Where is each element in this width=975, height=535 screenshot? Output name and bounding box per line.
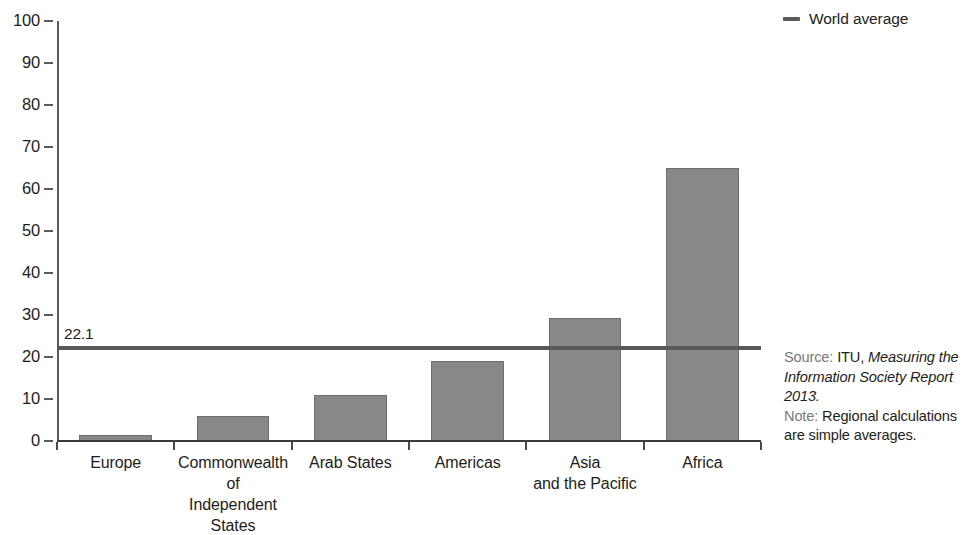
world-average-value-label: 22.1 [64,326,93,341]
bar-commonwealth-of-independent-states [197,416,270,441]
bar-arab-states [314,395,387,441]
x-axis-label-europe: Europe [57,452,174,473]
y-axis-tick-label: 50 [0,222,40,238]
bar-series [57,21,761,441]
plot-area: 1009080706050403020100 22.1 EuropeCommon… [0,0,760,519]
x-axis-tick-mark [760,442,762,450]
y-axis-tick-mark [44,230,53,232]
x-axis-label-commonwealth-of-independent-states: CommonwealthofIndependent States [174,452,291,535]
x-axis-label-americas: Americas [409,452,526,473]
y-axis-tick-mark [44,356,53,358]
y-axis-tick-mark [44,314,53,316]
x-axis-tick-mark [56,442,58,450]
y-axis-tick-mark [44,146,53,148]
y-axis-tick-mark [44,188,53,190]
x-axis-label-line: Europe [57,452,174,473]
y-axis-tick-mark [44,272,53,274]
x-axis-category-labels: EuropeCommonwealthofIndependent StatesAr… [57,452,761,519]
x-axis-label-line: Independent States [174,494,291,535]
x-axis-label-africa: Africa [644,452,761,473]
y-axis-tick-mark [44,62,53,64]
y-axis-tick-mark [44,440,53,442]
x-axis-tick-mark [408,442,410,450]
y-axis-tick-label: 100 [0,12,40,28]
bar-asia-and-the-pacific [549,318,622,441]
x-axis-label-arab-states: Arab States [292,452,409,473]
x-axis-tick-mark [525,442,527,450]
x-axis-label-line: of [174,473,291,494]
legend-label-world-average: World average [809,10,908,27]
bar-americas [431,361,504,441]
source-line: Source: ITU, Measuring the Information S… [784,348,974,407]
source-publisher: ITU, [833,349,868,365]
y-axis-tick-label: 90 [0,54,40,70]
x-axis-label-line: Asia [526,452,643,473]
world-average-line [57,346,761,350]
x-axis-tick-mark [643,442,645,450]
source-note-block: Source: ITU, Measuring the Information S… [784,348,974,446]
note-keyword: Note: [784,408,818,424]
note-line: Note: Regional calculations are simple a… [784,407,974,446]
x-axis-label-line: Americas [409,452,526,473]
y-axis-tick-mark [44,20,53,22]
y-axis-tick-label: 60 [0,180,40,196]
x-axis-label-line: Africa [644,452,761,473]
y-axis-tick-label: 0 [0,432,40,448]
y-axis-labels: 1009080706050403020100 [0,0,40,519]
chart-legend: World average [783,10,908,27]
world-average-line-swatch-icon [783,17,800,21]
y-axis-tick-mark [44,398,53,400]
y-axis-tick-mark [44,104,53,106]
bar-africa [666,168,739,441]
y-axis-tick-label: 10 [0,390,40,406]
y-axis-tick-label: 40 [0,264,40,280]
y-axis-tick-label: 30 [0,306,40,322]
y-axis-tick-label: 70 [0,138,40,154]
x-axis-label-line: Arab States [292,452,409,473]
y-axis-tick-label: 20 [0,348,40,364]
x-axis-label-asia-and-the-pacific: Asiaand the Pacific [526,452,643,494]
x-axis-label-line: Commonwealth [174,452,291,473]
source-keyword: Source: [784,349,833,365]
x-axis-tick-mark [173,442,175,450]
y-axis-tick-label: 80 [0,96,40,112]
x-axis-tick-mark [291,442,293,450]
x-axis-label-line: and the Pacific [526,473,643,494]
